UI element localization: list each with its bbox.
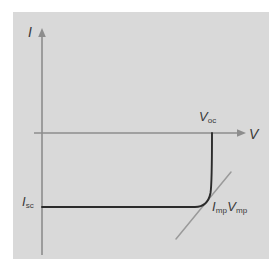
voltage-axis-label-text: V bbox=[249, 126, 258, 142]
current-axis-arrow-icon bbox=[38, 28, 46, 37]
short-circuit-current-label: Isc bbox=[22, 195, 34, 208]
voc-subscript: oc bbox=[208, 116, 217, 125]
iv-characteristic-curve bbox=[42, 133, 212, 207]
imp-subscript: mp bbox=[216, 206, 228, 215]
current-axis-label-text: I bbox=[28, 24, 32, 40]
voltage-axis-arrow-icon bbox=[237, 129, 246, 137]
voltage-axis-label: V bbox=[249, 127, 258, 141]
isc-subscript: sc bbox=[26, 201, 34, 210]
current-axis-label: I bbox=[28, 25, 32, 39]
open-circuit-voltage-label: Voc bbox=[199, 110, 217, 123]
voc-symbol: V bbox=[199, 109, 208, 124]
vmp-symbol: V bbox=[227, 199, 236, 214]
plot-canvas bbox=[0, 0, 279, 271]
iv-curve-figure: I V Voc Isc ImpVmp bbox=[0, 0, 279, 271]
vmp-subscript: mp bbox=[236, 206, 248, 215]
maximum-power-point-label: ImpVmp bbox=[212, 200, 247, 213]
